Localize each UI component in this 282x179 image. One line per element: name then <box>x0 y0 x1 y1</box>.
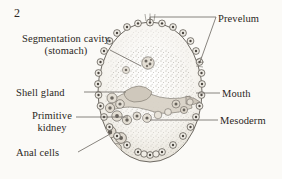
label-primitive-kidney-line1: Primitive <box>32 110 72 121</box>
label-primitive-kidney: Primitive kidney <box>19 110 85 133</box>
embryo-figure: 2 Segmentation cavity (stomach) Shell gl… <box>0 0 282 179</box>
label-anal-cells: Anal cells <box>16 147 59 159</box>
label-mouth: Mouth <box>222 88 251 100</box>
leader-anal-cells <box>78 133 112 152</box>
label-mesoderm: Mesoderm <box>220 115 266 127</box>
label-segmentation-cavity: Segmentation cavity (stomach) <box>10 33 122 56</box>
label-primitive-kidney-line2: kidney <box>19 122 85 134</box>
label-segmentation-cavity-line1: Segmentation cavity <box>22 33 110 44</box>
leader-prevelum-branch <box>200 17 216 62</box>
label-prevelum: Prevelum <box>218 13 259 25</box>
label-segmentation-cavity-line2: (stomach) <box>10 45 122 57</box>
figure-number: 2 <box>14 6 20 21</box>
central-nucleus-cluster <box>142 57 154 69</box>
label-shell-gland: Shell gland <box>16 87 65 99</box>
